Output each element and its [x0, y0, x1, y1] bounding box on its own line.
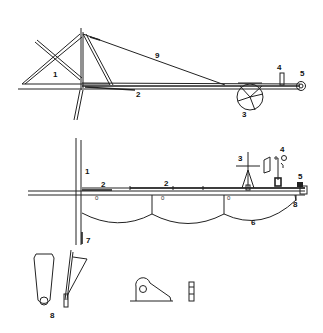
label-instrument: 4 — [280, 145, 285, 154]
label-post: 4 — [277, 63, 282, 72]
mark-1: 0 — [161, 195, 165, 201]
bracket-detail — [34, 254, 54, 305]
wheel — [237, 83, 263, 110]
label-stay-cable: 9 — [155, 51, 160, 60]
label-end-fitting-side: 5 — [298, 172, 303, 181]
lug-detail — [130, 278, 173, 301]
top-view: 1 2 9 3 4 5 — [18, 28, 306, 120]
label-boom: 2 — [136, 90, 141, 99]
side-view: 1 2 2 3 4 5 6 7 8 0 0 0 — [28, 138, 307, 245]
label-frame: 1 — [53, 70, 58, 79]
stay-cable — [83, 34, 225, 85]
bracket-side-detail — [64, 250, 87, 307]
label-boom-mid: 2 — [164, 179, 169, 188]
side-end-fitting — [297, 182, 303, 187]
mark-2: 0 — [227, 195, 231, 201]
label-bracket: 8 — [50, 311, 55, 320]
label-hanger: 8 — [293, 200, 298, 209]
technical-diagram: 1 2 9 3 4 5 — [0, 0, 323, 333]
details: 8 — [34, 250, 194, 320]
suspension-cable — [82, 195, 296, 224]
post — [280, 73, 284, 85]
mark-0: 0 — [95, 195, 99, 201]
label-boom-left: 2 — [101, 180, 106, 189]
label-foot: 7 — [86, 236, 91, 245]
label-mast: 3 — [238, 154, 243, 163]
label-frame-side: 1 — [85, 167, 90, 176]
label-wheel: 3 — [242, 110, 247, 119]
frame-truss — [22, 28, 113, 120]
lug-end-detail — [189, 282, 194, 301]
label-cable: 6 — [251, 218, 256, 227]
label-end-fitting: 5 — [300, 69, 305, 78]
instrument — [264, 156, 287, 187]
